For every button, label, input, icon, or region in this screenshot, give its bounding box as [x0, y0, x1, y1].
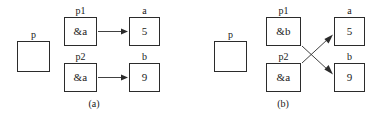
panel-a-pointer-p2-box: &a [64, 63, 97, 92]
panel-a-caption: (a) [0, 99, 188, 109]
panel-a-pointer-p2-value: &a [74, 72, 88, 83]
panel-a-pointer-p1-box: &a [64, 17, 97, 46]
panel-b-target-b-label: b [334, 52, 365, 62]
panel-a-target-a-box: 5 [129, 17, 160, 46]
panel-a-target-a-value: 5 [142, 26, 148, 37]
panel-b-target-b-box: 9 [334, 63, 365, 92]
panel-b-arrow-p2-to-a [302, 35, 333, 64]
panel-a-target-b-label: b [129, 52, 160, 62]
panel-b-target-a-value: 5 [347, 26, 353, 37]
panel-a-target-b-box: 9 [129, 63, 160, 92]
panel-a-pointer-p2-label: p2 [64, 52, 97, 62]
panel-a-pointer-p1-label: p1 [64, 6, 97, 16]
panel-b-pointer-p1-label: p1 [266, 6, 301, 16]
pointer-diagram-figure: p p1 &a p2 &a a 5 b 9 [0, 0, 377, 117]
panel-a-arrow-p2-to-b [98, 74, 128, 80]
panel-b: p p1 &b p2 &a a 5 b 9 [189, 0, 377, 117]
panel-a-pointer-p1-value: &a [74, 26, 88, 37]
panel-b-standalone-box [214, 41, 247, 72]
panel-b-pointer-p2-box: &a [266, 63, 301, 92]
panel-a-target-a-label: a [129, 6, 160, 16]
panel-b-pointer-p2-label: p2 [266, 52, 301, 62]
panel-a-standalone-box [17, 41, 50, 72]
panel-a-target-b-value: 9 [142, 72, 148, 83]
panel-b-target-a-box: 5 [334, 17, 365, 46]
panel-b-pointer-p1-box: &b [266, 17, 301, 46]
panel-a-arrow-p1-to-a [98, 28, 128, 34]
panel-b-caption: (b) [189, 99, 377, 109]
panel-b-target-b-value: 9 [347, 72, 353, 83]
panel-b-standalone-label: p [214, 30, 247, 40]
panel-a: p p1 &a p2 &a a 5 b 9 [0, 0, 188, 117]
panel-b-target-a-label: a [334, 6, 365, 16]
panel-b-arrow-p1-to-b [302, 46, 333, 75]
panel-b-pointer-p1-value: &b [276, 26, 290, 37]
panel-a-standalone-label: p [17, 30, 50, 40]
panel-b-pointer-p2-value: &a [277, 72, 291, 83]
